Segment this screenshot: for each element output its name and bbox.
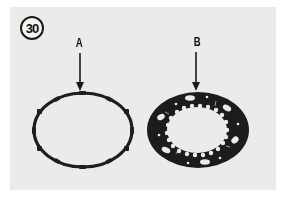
ring-a-icon xyxy=(32,91,134,169)
arrow-down-icon xyxy=(192,52,200,91)
ring-b-icon xyxy=(147,92,249,168)
parts-illustration xyxy=(0,0,287,202)
arrow-down-icon xyxy=(76,53,84,91)
